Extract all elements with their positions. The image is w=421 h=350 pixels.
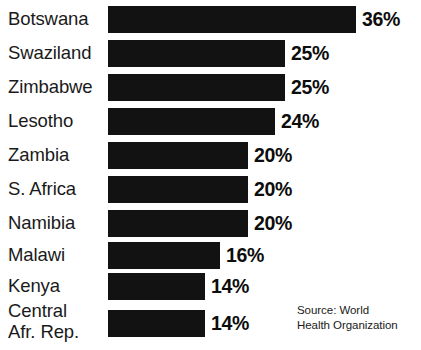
- value-label: 20%: [254, 176, 292, 203]
- value-bar: [108, 6, 356, 33]
- value-label: 24%: [281, 108, 319, 135]
- value-label: 16%: [226, 242, 264, 269]
- value-label: 14%: [211, 310, 249, 337]
- category-label: Kenya: [8, 275, 60, 296]
- category-label: Swaziland: [8, 42, 91, 63]
- category-label: Lesotho: [8, 110, 73, 131]
- value-label: 25%: [291, 74, 329, 101]
- value-label: 36%: [362, 6, 400, 33]
- value-label: 20%: [254, 142, 292, 169]
- category-label: Botswana: [8, 8, 88, 29]
- category-label: Malawi: [8, 244, 65, 265]
- value-bar: [108, 242, 220, 269]
- category-label: Zambia: [8, 144, 69, 165]
- value-bar: [108, 40, 285, 67]
- value-bar: [108, 74, 285, 101]
- value-bar: [108, 273, 205, 300]
- value-label: 14%: [211, 273, 249, 300]
- value-label: 20%: [254, 210, 292, 237]
- bar-chart: Botswana 36% Swaziland 25% Zimbabwe 25% …: [0, 0, 421, 350]
- category-label: Zimbabwe: [8, 76, 93, 97]
- category-label: S. Africa: [8, 178, 76, 199]
- value-bar: [108, 142, 248, 169]
- value-bar: [108, 310, 205, 337]
- value-bar: [108, 176, 248, 203]
- value-bar: [108, 108, 275, 135]
- value-bar: [108, 210, 248, 237]
- category-label: Namibia: [8, 212, 75, 233]
- source-note: Source: World Health Organization: [297, 303, 421, 333]
- category-label: Central Afr. Rep.: [8, 300, 79, 342]
- value-label: 25%: [291, 40, 329, 67]
